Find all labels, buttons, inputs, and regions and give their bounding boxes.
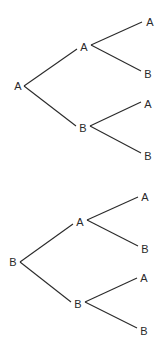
level1-node-label: A xyxy=(76,216,84,228)
edge-a-to-b xyxy=(91,45,141,71)
leaf-node-label: B xyxy=(140,325,147,337)
tree-diagram-canvas: A A B A B A B B A B A B A B xyxy=(0,0,160,356)
leaf-node-label: B xyxy=(141,243,148,255)
edge-a-to-a xyxy=(87,197,138,220)
tree-2: B A B A B A B xyxy=(9,191,149,337)
tree-1: A A B A B A B xyxy=(14,16,154,162)
level1-node-label: B xyxy=(79,122,86,134)
edge-root-b-to-b xyxy=(20,262,71,302)
edge-root-a-to-b xyxy=(24,86,76,126)
leaf-node-label: A xyxy=(146,16,154,28)
leaf-node-label: A xyxy=(144,98,152,110)
edge-b-to-b xyxy=(90,126,141,153)
leaf-node-label: B xyxy=(144,150,151,162)
leaf-node-label: A xyxy=(140,272,148,284)
edge-a-to-b xyxy=(87,220,138,246)
edge-root-b-to-a xyxy=(20,224,73,262)
root-node-label: B xyxy=(9,256,16,268)
edge-a-to-a xyxy=(91,22,142,45)
edge-b-to-b xyxy=(85,302,137,328)
level1-node-label: A xyxy=(80,41,88,53)
edge-b-to-a xyxy=(85,278,137,302)
level1-node-label: B xyxy=(74,298,81,310)
leaf-node-label: A xyxy=(141,191,149,203)
edge-b-to-a xyxy=(90,102,141,126)
root-node-label: A xyxy=(14,80,22,92)
leaf-node-label: B xyxy=(144,68,151,80)
edge-root-a-to-a xyxy=(24,49,77,86)
